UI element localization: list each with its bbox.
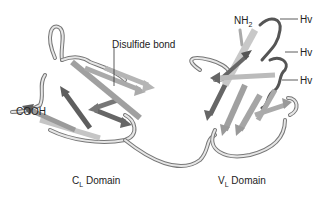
hv-label-2: Hv xyxy=(300,48,312,58)
nh2-subscript: 2 xyxy=(248,21,252,28)
cl-subscript: L xyxy=(79,181,83,188)
vl-domain-label: VL Domain xyxy=(218,176,266,186)
disulfide-bond-label: Disulfide bond xyxy=(112,40,175,50)
cl-rest: Domain xyxy=(83,175,120,186)
vl-subscript: L xyxy=(225,181,229,188)
hv-label-3: Hv xyxy=(300,76,312,86)
nh2-label: NH2 xyxy=(234,16,252,26)
cooh-label: COOH xyxy=(16,107,46,117)
nh2-main: NH xyxy=(234,15,248,26)
hv-label-1: Hv xyxy=(300,15,312,25)
cl-domain-label: CL Domain xyxy=(72,176,120,186)
protein-ribbon-diagram xyxy=(0,0,329,198)
vl-main: V xyxy=(218,175,225,186)
vl-rest: Domain xyxy=(229,175,266,186)
